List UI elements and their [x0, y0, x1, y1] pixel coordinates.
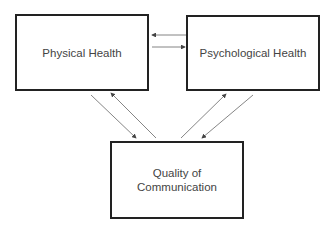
psychological-health-label: Psychological Health — [200, 46, 307, 60]
arrow-communication-to-psych — [181, 94, 226, 138]
communication-label-line2: Communication — [137, 180, 217, 194]
arrow-psych-to-communication — [202, 95, 253, 138]
physical-health-label: Physical Health — [42, 46, 121, 60]
arrow-communication-to-physical — [111, 93, 156, 138]
psychological-health-box: Psychological Health — [186, 15, 320, 91]
quality-of-communication-box: Quality of Communication — [110, 141, 244, 219]
diagram-canvas: Physical Health Psychological Health Qua… — [0, 0, 334, 229]
arrow-physical-to-communication — [91, 95, 136, 138]
physical-health-box: Physical Health — [15, 14, 149, 91]
communication-label-line1: Quality of — [153, 166, 202, 180]
